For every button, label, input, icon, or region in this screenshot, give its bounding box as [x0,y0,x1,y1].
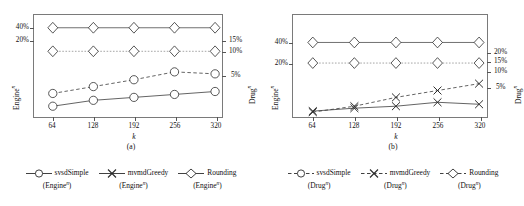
panel-a-xlabel-2: 192 [125,123,143,130]
legend-entry-svsdsimple-drug: svsdSimple (Drugn) [288,168,351,190]
panel-b-xlabel-2: 192 [387,123,405,130]
panel-b-xlabel-3: 256 [429,123,447,130]
panel-b-ylabel-left-0: 40% [268,39,288,46]
panel-b-ylabel-right-0: 20% [494,49,507,56]
legend-marker-diamond-solid-icon [178,168,204,179]
legend-sublabel-mvmdgreedy-engine: (Enginen) [119,179,147,190]
panel-a-ylabel-left-0: 40% [9,24,29,31]
panel-a-x-axis-title: k [125,132,143,141]
panel-a-xtick-0 [53,117,54,121]
panel-b-xtick-0 [313,117,314,121]
panel-b-xlabel-4: 320 [471,123,489,130]
legend-label-mvmdgreedy-engine: mvmdGreedy [128,169,169,177]
legend-label-svsdsimple-drug: svsdSimple [317,169,351,177]
panel-b-series-layer [293,15,487,117]
panel-b-y-axis-right-title: Drugn [512,86,523,104]
panel-a-xtick-4 [217,117,218,121]
panel-b-plot-area [292,14,488,118]
legend-entry-rounding-engine: Rounding (Enginen) [178,168,236,190]
panel-b-x-axis-title: k [387,132,405,141]
legend-entry-mvmdgreedy-drug: mvmdGreedy (Drugn) [361,168,431,190]
legend-marker-cross-solid-icon [99,168,125,179]
panel-a-xlabel-0: 64 [45,123,59,130]
panel-a-ytick-right-1 [222,52,226,53]
panel-a-ytick-right-0 [222,41,226,42]
panel-a-xtick-2 [135,117,136,121]
legend-marker-circle-solid-icon [26,168,52,179]
panel-b-y-axis-left-title: Enginen [269,86,280,110]
panel-a-xlabel-1: 128 [84,123,102,130]
panel-a-markers-svsdsimple-engine [49,87,220,110]
panel-b-xtick-2 [397,117,398,121]
panel-b-ylabel-right-3: 5% [496,84,506,91]
panel-b-ylabel-right-1: 15% [494,58,507,65]
panel-b-sublabel: (b) [262,142,524,151]
panel-b-ylabel-left-1: 20% [268,60,288,67]
legend-marker-diamond-dashed-icon [440,168,466,179]
panel-b-xtick-4 [481,117,482,121]
panel-a-ylabel-right-1: 10% [229,48,242,55]
panel-b-xtick-3 [439,117,440,121]
legend-panel-a: svsdSimple (Enginen) mvmdGreedy (Enginen… [0,168,262,190]
legend-label-rounding-engine: Rounding [207,169,236,177]
legend-sublabel-rounding-engine: (Enginen) [193,179,221,190]
panel-a-ylabel-right-0: 15% [229,37,242,44]
panel-b-ytick-right-3 [487,88,491,89]
panel-b-markers-mvmdgreedy-engine [309,98,483,115]
legend-sublabel-mvmdgreedy-drug: (Drugn) [384,179,407,190]
panel-a-y-axis-right-title: Drugn [246,86,257,104]
legend-marker-circle-dashed-icon [288,168,314,179]
legend-sublabel-svsdsimple-drug: (Drugn) [308,179,331,190]
legend-marker-cross-dashed-icon [361,168,387,179]
panel-b-xlabel-0: 64 [305,123,319,130]
panel-b-ytick-right-1 [487,62,491,63]
panel-a-xlabel-3: 256 [166,123,184,130]
panel-a-y-axis-left-title: Enginen [10,86,21,110]
legend-panel-b: svsdSimple (Drugn) mvmdGreedy (Drugn) [262,168,524,190]
panel-a-plot-area [33,14,223,118]
legend-sublabel-svsdsimple-engine: (Enginen) [43,179,71,190]
panel-a-xlabel-4: 320 [207,123,225,130]
panel-a-xtick-1 [94,117,95,121]
panel-a-ylabel-left-1: 20% [9,37,29,44]
legend-entry-svsdsimple-engine: svsdSimple (Enginen) [26,168,89,190]
panel-a-markers-rounding-drug [48,46,220,57]
panel-b-xtick-1 [355,117,356,121]
panel-b-ylabel-right-2: 10% [494,68,507,75]
legend-label-mvmdgreedy-drug: mvmdGreedy [390,169,431,177]
figure-container: Enginen Drugn [0,0,524,206]
panel-a-ytick-right-2 [222,76,226,77]
panel-b-xlabel-1: 128 [345,123,363,130]
legend-entry-rounding-drug: Rounding (Drugn) [440,168,498,190]
panel-b-ytick-right-0 [487,53,491,54]
panel-b-markers-rounding-drug [308,58,484,69]
panel-a-ylabel-right-2: 5% [231,72,241,79]
panel-a-sublabel: (a) [0,142,262,151]
panel-a-xtick-3 [176,117,177,121]
panel-b-ytick-right-2 [487,72,491,73]
legend-label-rounding-drug: Rounding [469,169,498,177]
panel-a-series-layer [34,15,222,117]
legend-entry-mvmdgreedy-engine: mvmdGreedy (Enginen) [99,168,169,190]
panel-b-markers-mvmdgreedy-drug [309,80,483,116]
legend-sublabel-rounding-drug: (Drugn) [458,179,481,190]
legend-label-svsdsimple-engine: svsdSimple [55,169,89,177]
